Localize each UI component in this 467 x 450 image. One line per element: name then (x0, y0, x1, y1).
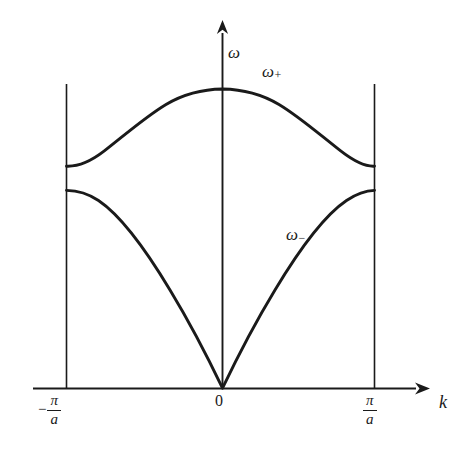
y-axis-label: ω (228, 44, 240, 61)
x-tick-right-denominator: a (363, 411, 377, 429)
curve-optical-branch (67, 89, 375, 166)
acoustic-branch-subscript: − (298, 231, 305, 245)
x-tick-left-fraction: π a (47, 392, 61, 428)
x-tick-left-numerator: π (47, 392, 61, 411)
y-axis-arrowhead (217, 20, 228, 34)
x-axis-label: k (439, 393, 447, 411)
x-tick-right-numerator: π (363, 392, 377, 411)
dispersion-plot-canvas (0, 0, 467, 450)
x-axis-arrowhead (415, 383, 430, 395)
optical-branch-symbol: ω (262, 62, 274, 81)
x-tick-left-sign: − (38, 402, 47, 417)
x-tick-left-denominator: a (47, 411, 61, 429)
y-axis (217, 20, 228, 389)
x-tick-right-fraction: π a (363, 392, 377, 428)
origin-tick-label: 0 (215, 393, 223, 409)
x-tick-label-left: − π a (38, 392, 61, 428)
optical-branch-subscript: + (274, 68, 281, 82)
acoustic-branch-label: ω− (286, 226, 305, 244)
curve-acoustic-branch (67, 190, 375, 388)
phonon-dispersion-figure: ω k ω+ ω− 0 − π a π a (0, 0, 467, 450)
x-tick-label-right: π a (363, 392, 377, 428)
optical-branch-label: ω+ (262, 63, 281, 81)
acoustic-branch-symbol: ω (286, 225, 298, 244)
